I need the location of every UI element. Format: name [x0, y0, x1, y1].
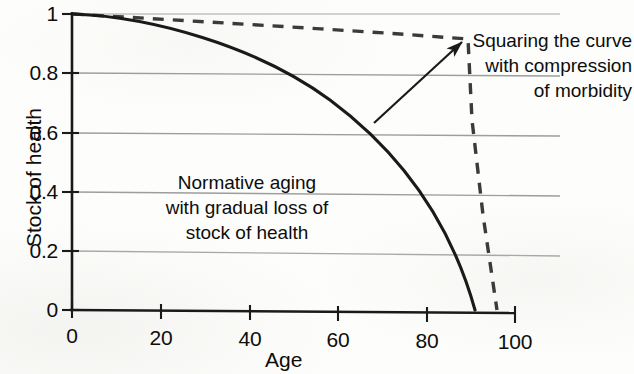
- annotation-normative-aging-line-1: Normative aging: [156, 170, 338, 195]
- annotation-squaring-the-curve-line-3: of morbidity: [472, 78, 632, 103]
- annotation-normative-aging-line-3: stock of health: [156, 220, 338, 245]
- xtick-label-100: 100: [485, 330, 545, 354]
- annotation-squaring-the-curve-line-1: Squaring the curve: [472, 28, 632, 53]
- y-axis-title: Stock of health: [22, 108, 46, 247]
- annotation-arrow: [374, 42, 462, 123]
- series-normative-aging: [74, 14, 475, 310]
- y-tick-marks: [62, 14, 79, 310]
- figure-container: 1 0.8 0.6 0.4 0.2 0 0 20 40 60 80 100 St…: [0, 0, 634, 374]
- x-axis-title: Age: [265, 348, 302, 372]
- ytick-label-1: 1: [2, 2, 58, 26]
- annotation-normative-aging: Normative aging with gradual loss of sto…: [156, 170, 338, 245]
- annotation-normative-aging-line-2: with gradual loss of: [156, 195, 338, 220]
- annotation-squaring-the-curve-line-2: with compression: [472, 53, 632, 78]
- xtick-label-60: 60: [308, 328, 368, 352]
- xtick-label-20: 20: [131, 326, 191, 350]
- axes: [70, 12, 516, 313]
- xtick-label-0: 0: [42, 324, 102, 348]
- series-squaring-the-curve: [73, 14, 497, 310]
- gridline-y-0.6: [72, 133, 560, 136]
- ytick-label-0: 0: [2, 298, 58, 322]
- annotation-squaring-the-curve: Squaring the curve with compression of m…: [472, 28, 632, 103]
- ytick-label-0.8: 0.8: [2, 61, 58, 85]
- xtick-label-80: 80: [397, 329, 457, 353]
- x-axis-line: [70, 310, 516, 313]
